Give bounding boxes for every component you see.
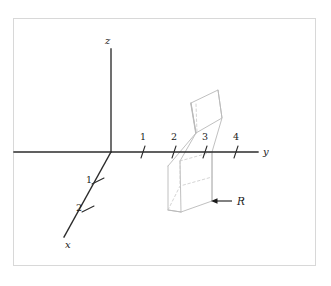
prism-top-slant-face <box>191 90 222 133</box>
region-prism <box>168 90 222 212</box>
region-prism-hidden-edges <box>168 104 212 210</box>
x-axis-line <box>64 152 111 237</box>
z-axis-label: z <box>105 36 110 46</box>
prism-hidden-vertical-edge <box>196 104 197 133</box>
axis-lines <box>14 49 258 237</box>
x-axis-label: x <box>65 240 71 250</box>
x-tick-label-2: 2 <box>76 203 82 213</box>
x-tick-1 <box>92 178 104 184</box>
y-tick-label-1: 1 <box>140 132 146 142</box>
figure-root: z y x 1 2 3 4 1 2 R <box>0 0 331 286</box>
prism-hidden-base-diagonal <box>168 177 212 210</box>
region-arrow <box>211 198 232 204</box>
x-tick-label-1: 1 <box>86 175 92 185</box>
prism-bottom-front-face <box>168 152 212 212</box>
y-tick-label-4: 4 <box>233 132 239 142</box>
y-axis-label: y <box>263 147 269 157</box>
prism-upper-left-connector <box>191 103 196 133</box>
x-tick-2 <box>82 206 94 212</box>
figure-canvas <box>0 0 331 286</box>
prism-right-slant-edge <box>212 90 222 201</box>
y-tick-label-2: 2 <box>171 132 177 142</box>
prism-base-front-diagonal <box>168 210 181 212</box>
region-label-r: R <box>237 196 245 207</box>
y-tick-label-3: 3 <box>202 132 208 142</box>
